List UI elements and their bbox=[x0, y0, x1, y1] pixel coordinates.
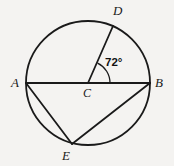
vertex-label-c-center: C bbox=[83, 87, 91, 99]
segment-radius-CD bbox=[88, 26, 113, 83]
vertex-label-d: D bbox=[113, 4, 122, 17]
vertex-label-b: B bbox=[155, 76, 163, 89]
vertex-label-a: A bbox=[11, 76, 19, 89]
segment-chord-AE bbox=[26, 83, 72, 144]
angle-measure-label: 72° bbox=[105, 57, 122, 69]
vertex-label-e: E bbox=[62, 149, 70, 162]
geometry-figure: A B C D E 72° bbox=[0, 0, 174, 166]
circle-geometry-svg bbox=[0, 0, 174, 166]
